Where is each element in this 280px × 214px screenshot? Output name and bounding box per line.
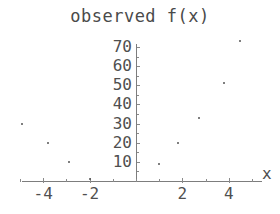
- y-axis-tick-labels: 10203040506070: [96, 0, 132, 214]
- data-point: [239, 40, 241, 42]
- y-tick-label: 60: [98, 58, 132, 74]
- x-tick-minor: [159, 179, 160, 182]
- y-tick-minor: [137, 171, 139, 172]
- x-tick-minor: [252, 179, 253, 182]
- x-tick-label: 2: [167, 186, 197, 202]
- y-tick: [137, 104, 140, 105]
- x-tick-minor: [206, 179, 207, 182]
- y-tick-minor: [137, 114, 139, 115]
- data-point: [223, 82, 225, 84]
- y-tick-label: 30: [98, 116, 132, 132]
- data-point: [47, 142, 49, 144]
- data-point: [198, 117, 200, 119]
- y-tick: [137, 143, 140, 144]
- y-tick-minor: [137, 152, 139, 153]
- y-tick-minor: [137, 133, 139, 134]
- y-tick: [137, 85, 140, 86]
- x-tick-minor: [66, 179, 67, 182]
- y-tick-label: 40: [98, 96, 132, 112]
- y-tick-minor: [137, 57, 139, 58]
- x-tick-major: [43, 178, 44, 183]
- y-tick: [137, 162, 140, 163]
- y-tick-minor: [137, 95, 139, 96]
- y-tick: [137, 66, 140, 67]
- x-tick-major: [182, 178, 183, 183]
- x-tick-minor: [136, 179, 137, 182]
- scatter-plot: observed f(x) 10203040506070 -4-224 x: [0, 0, 280, 214]
- data-point: [21, 123, 23, 125]
- y-tick: [137, 47, 140, 48]
- y-tick-minor: [137, 76, 139, 77]
- x-tick-label: 4: [214, 186, 244, 202]
- y-tick: [137, 124, 140, 125]
- x-axis-line: [22, 181, 262, 182]
- y-tick-label: 50: [98, 77, 132, 93]
- data-point: [177, 142, 179, 144]
- x-tick-label: -2: [75, 186, 105, 202]
- data-point: [68, 161, 70, 163]
- y-tick-label: 10: [98, 154, 132, 170]
- y-tick-label: 70: [98, 39, 132, 55]
- x-tick-minor: [20, 179, 21, 182]
- data-point: [158, 163, 160, 165]
- data-point: [89, 178, 91, 180]
- y-tick-label: 20: [98, 135, 132, 151]
- x-tick-major: [229, 178, 230, 183]
- x-tick-label: -4: [28, 186, 58, 202]
- x-axis-label: x: [262, 166, 272, 182]
- chart-title: observed f(x): [0, 6, 280, 26]
